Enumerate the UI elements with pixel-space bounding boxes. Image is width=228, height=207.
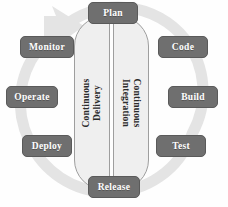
panel-continuous-integration: Continuous Integration	[113, 16, 149, 190]
panel-continuous-delivery-label: Continuous Delivery	[81, 79, 103, 128]
stage-plan[interactable]: Plan	[88, 2, 138, 24]
stage-release[interactable]: Release	[88, 176, 140, 198]
stage-build[interactable]: Build	[168, 86, 218, 108]
stage-deploy[interactable]: Deploy	[22, 135, 72, 157]
panel-continuous-integration-label: Continuous Integration	[120, 79, 142, 128]
panel-ci-line1: Continuous	[132, 79, 142, 128]
stage-monitor[interactable]: Monitor	[20, 36, 74, 58]
devops-cycle-diagram: Continuous Delivery Continuous Integrati…	[0, 0, 228, 207]
panel-ci-line2: Integration	[121, 79, 131, 127]
stage-test[interactable]: Test	[156, 135, 206, 157]
stage-code[interactable]: Code	[158, 36, 208, 58]
panel-cd-line1: Continuous	[81, 79, 91, 128]
panel-continuous-delivery: Continuous Delivery	[74, 16, 110, 190]
stage-operate[interactable]: Operate	[6, 86, 58, 108]
panel-cd-line2: Delivery	[92, 85, 102, 121]
